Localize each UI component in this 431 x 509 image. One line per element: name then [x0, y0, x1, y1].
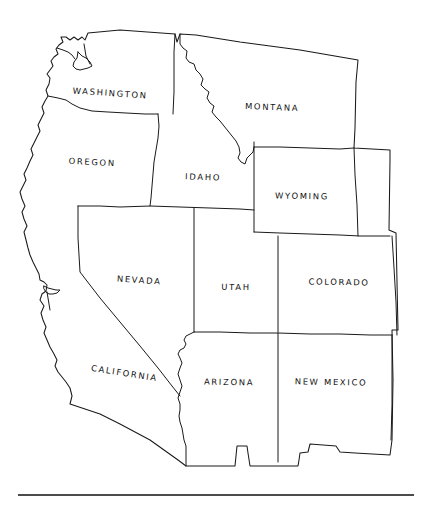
map-figure: WASHINGTONOREGONIDAHOMONTANAWYOMINGNEVAD…	[0, 0, 431, 509]
state-label-colorado: COLORADO	[308, 276, 369, 287]
state-label-wyoming: WYOMING	[275, 191, 329, 202]
state-label-utah: UTAH	[221, 282, 251, 293]
state-label-arizona: ARIZONA	[204, 377, 254, 388]
state-label-montana: MONTANA	[245, 101, 299, 113]
state-label-idaho: IDAHO	[185, 171, 221, 182]
state-label-new-mexico: NEW MEXICO	[295, 376, 368, 387]
western-us-map[interactable]: WASHINGTONOREGONIDAHOMONTANAWYOMINGNEVAD…	[0, 0, 431, 509]
